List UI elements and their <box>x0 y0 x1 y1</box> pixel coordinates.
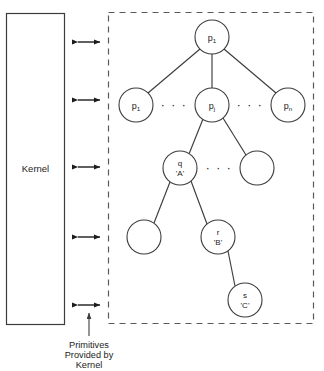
node-r-resource: 'B' <box>214 238 223 247</box>
node-root: p1 <box>195 20 229 54</box>
caption-group: Primitives Provided by Kernel <box>65 313 114 370</box>
caption-line-2: Provided by <box>65 350 114 360</box>
node-s-resource: 'C' <box>241 301 250 310</box>
node-s-label: s <box>243 291 247 300</box>
edge-q-rsib <box>154 182 170 223</box>
node-p1: p1 <box>119 88 153 122</box>
node-circle <box>240 151 274 185</box>
ellipsis-row3: · · · <box>206 161 233 175</box>
node-circle <box>163 151 197 185</box>
kernel-label: Kernel <box>22 163 49 174</box>
edge-pj-q <box>189 119 203 154</box>
diagram-canvas: Kernel <box>0 0 324 371</box>
node-r: r 'B' <box>201 220 235 254</box>
edge-root-pn <box>224 49 276 93</box>
caption-line-3: Kernel <box>76 360 103 370</box>
node-q-sibling-empty <box>240 151 274 185</box>
edge-pj-qsib <box>223 118 246 155</box>
node-r-label: r <box>217 228 220 237</box>
node-circle <box>201 220 235 254</box>
node-circle <box>228 283 262 317</box>
node-q: q 'A' <box>163 151 197 185</box>
node-s: s 'C' <box>228 283 262 317</box>
edge-root-p1 <box>148 49 200 93</box>
caption-line-1: Primitives <box>69 340 109 350</box>
node-r-sibling-empty <box>127 220 161 254</box>
node-q-label: q <box>178 159 182 168</box>
ellipsis-row2-right: · · · <box>237 98 264 112</box>
node-q-resource: 'A' <box>176 169 185 178</box>
node-pn: pn <box>271 88 305 122</box>
node-circle <box>127 220 161 254</box>
node-pj: pj <box>195 88 229 122</box>
process-tree-diagram: Kernel <box>0 0 324 371</box>
edge-q-r <box>191 181 207 224</box>
ellipsis-row2-left: · · · <box>161 98 188 112</box>
kernel-interface-arrows <box>78 42 100 305</box>
edge-r-s <box>228 251 235 286</box>
